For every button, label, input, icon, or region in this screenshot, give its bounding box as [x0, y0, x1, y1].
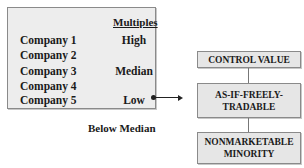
as-if-freely-tradable-label: AS-IF-FREELY-TRADABLE [212, 89, 286, 113]
nonmarketable-minority-label: NONMARKETABLE MINORITY [202, 136, 296, 160]
company-4-label: Company 4 [20, 80, 77, 92]
company-5-label: Company 5 [20, 94, 77, 106]
arrow-line [153, 97, 180, 98]
multiples-header: Multiples [113, 16, 158, 28]
nonmarketable-minority-box: NONMARKETABLE MINORITY [197, 132, 301, 164]
control-value-box: CONTROL VALUE [197, 51, 301, 68]
arrow-right-icon [178, 95, 183, 101]
connector-line [248, 68, 249, 83]
multiple-median-label: Median [104, 65, 164, 77]
company-3-label: Company 3 [20, 65, 77, 77]
control-value-label: CONTROL VALUE [208, 54, 290, 66]
below-median-label: Below Median [88, 122, 156, 134]
multiple-high-label: High [104, 34, 164, 46]
connector-line [248, 118, 249, 132]
company-2-label: Company 2 [20, 49, 77, 61]
comparable-companies-panel: Multiples Company 1 Company 2 Company 3 … [7, 7, 156, 109]
company-1-label: Company 1 [20, 34, 77, 46]
as-if-freely-tradable-box: AS-IF-FREELY-TRADABLE [197, 83, 301, 118]
